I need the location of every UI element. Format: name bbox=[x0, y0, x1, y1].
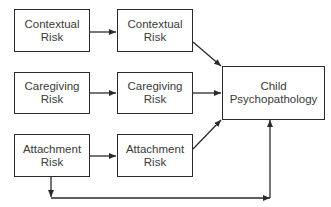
path-diagram: Contextual Risk Contextual Risk Caregivi… bbox=[0, 0, 331, 207]
node-label-line1: Contextual bbox=[25, 18, 80, 31]
node-attachment-risk-2: Attachment Risk bbox=[117, 134, 193, 177]
node-child-psychopathology: Child Psychopathology bbox=[222, 66, 325, 120]
node-label-line2: Risk bbox=[41, 93, 63, 106]
node-label-line2: Psychopathology bbox=[230, 93, 318, 106]
node-label-line1: Contextual bbox=[128, 18, 183, 31]
node-attachment-risk-1: Attachment Risk bbox=[14, 134, 90, 177]
node-contextual-risk-2: Contextual Risk bbox=[117, 9, 193, 52]
node-label-line1: Caregiving bbox=[25, 80, 80, 93]
arrow-attachment-2-to-child bbox=[193, 120, 221, 149]
node-label-line2: Risk bbox=[41, 156, 63, 169]
node-label-line1: Attachment bbox=[126, 143, 184, 156]
node-label-line1: Attachment bbox=[23, 143, 81, 156]
node-caregiving-risk-1: Caregiving Risk bbox=[14, 72, 90, 114]
node-label-line1: Child bbox=[260, 80, 286, 93]
node-label-line2: Risk bbox=[144, 31, 166, 44]
node-label-line1: Caregiving bbox=[128, 80, 183, 93]
node-caregiving-risk-2: Caregiving Risk bbox=[117, 72, 193, 114]
node-label-line2: Risk bbox=[41, 31, 63, 44]
node-label-line2: Risk bbox=[144, 156, 166, 169]
arrow-contextual-2-to-child bbox=[193, 42, 221, 66]
node-label-line2: Risk bbox=[144, 93, 166, 106]
node-contextual-risk-1: Contextual Risk bbox=[14, 9, 90, 52]
